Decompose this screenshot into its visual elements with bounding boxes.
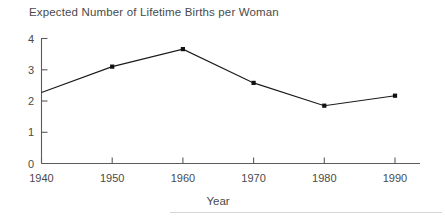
y-tick-label-4: 4 xyxy=(28,33,34,45)
data-point-1990 xyxy=(393,94,397,98)
data-point-1960 xyxy=(181,47,185,51)
x-tick-label-1990: 1990 xyxy=(383,172,407,184)
data-point-1970 xyxy=(252,81,256,85)
x-axis-title: Year xyxy=(206,195,229,207)
data-point-1950 xyxy=(110,65,114,69)
x-tick-label-1960: 1960 xyxy=(171,172,195,184)
y-tick-label-0: 0 xyxy=(28,158,34,170)
footer-divider xyxy=(170,212,442,213)
y-tick-label-3: 3 xyxy=(28,64,34,76)
y-tick-label-2: 2 xyxy=(28,95,34,107)
series-line-births xyxy=(42,49,396,106)
data-point-1980 xyxy=(322,104,326,108)
line-chart-plot: 4 3 2 1 0 1940 1950 1960 1970 1980 1990 … xyxy=(0,0,445,220)
chart-figure: Expected Number of Lifetime Births per W… xyxy=(0,0,445,220)
y-tick-label-1: 1 xyxy=(28,126,34,138)
x-tick-label-1950: 1950 xyxy=(100,172,124,184)
x-tick-label-1980: 1980 xyxy=(312,172,336,184)
x-tick-label-1970: 1970 xyxy=(241,172,265,184)
x-tick-label-1940: 1940 xyxy=(29,172,53,184)
